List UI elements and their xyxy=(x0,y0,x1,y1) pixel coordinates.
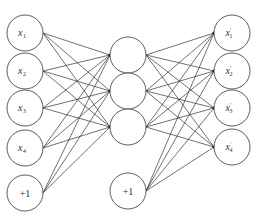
edge-x2-h2 xyxy=(43,71,110,91)
edge-b2-y2 xyxy=(146,71,214,191)
edge-h2-y2 xyxy=(146,71,214,91)
edge-b1-h2 xyxy=(43,91,110,193)
output-node-y1: x'1 xyxy=(214,15,250,51)
edge-x4-h3 xyxy=(43,127,110,148)
edge-b2-y3 xyxy=(146,108,214,191)
hidden-node-h1 xyxy=(110,37,146,73)
edge-b2-y4 xyxy=(146,147,214,191)
edge-h3-y1 xyxy=(146,33,214,127)
output-node-y3: x'3 xyxy=(214,90,250,126)
input-node-x1: x1 xyxy=(7,15,43,51)
input-node-x3: x3 xyxy=(7,90,43,126)
node-circle xyxy=(110,109,146,145)
edge-b2-y1 xyxy=(146,33,214,191)
output-node-y4: x'4 xyxy=(214,129,250,165)
nodes: x1x2x3x4+1+1x'1x'2x'3x'4 xyxy=(7,15,250,211)
bias-label: +1 xyxy=(123,186,134,197)
bias-node-b2: +1 xyxy=(110,173,146,209)
edge-h1-y1 xyxy=(146,33,214,55)
edge-h3-y3 xyxy=(146,108,214,127)
node-circle xyxy=(110,37,146,73)
edge-h2-y1 xyxy=(146,33,214,91)
node-circle xyxy=(110,73,146,109)
neural-network-diagram: x1x2x3x4+1+1x'1x'2x'3x'4 xyxy=(0,0,256,219)
edge-x1-h2 xyxy=(43,33,110,91)
bias-label: +1 xyxy=(20,188,31,199)
edge-h3-y4 xyxy=(146,127,214,147)
edge-b1-h3 xyxy=(43,127,110,193)
hidden-node-h2 xyxy=(110,73,146,109)
input-node-x4: x4 xyxy=(7,130,43,166)
bias-node-b1: +1 xyxy=(7,175,43,211)
output-node-y2: x'2 xyxy=(214,53,250,89)
hidden-node-h3 xyxy=(110,109,146,145)
edge-x1-h1 xyxy=(43,33,110,55)
edge-x1-h3 xyxy=(43,33,110,127)
input-node-x2: x2 xyxy=(7,53,43,89)
